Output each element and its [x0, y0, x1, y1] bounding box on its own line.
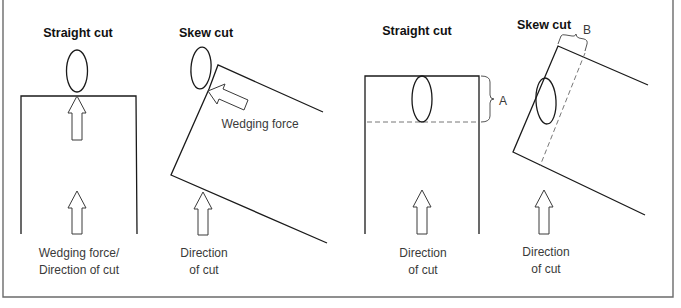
cutting-diagram: Straight cut Wedging force/ Direction of… — [0, 0, 681, 308]
direction-arrow-icon — [194, 192, 212, 235]
workpiece-outline — [171, 65, 327, 243]
cut-depth-dashed-line — [540, 53, 585, 166]
caption-line-1: Wedging force/ — [39, 246, 120, 260]
caption-line-1: Direction — [522, 245, 569, 259]
wedging-force-annotation: Wedging force — [221, 117, 298, 131]
panel-skew-cut-2: Skew cut B Direction of cut — [513, 18, 648, 276]
panel-skew-cut-1: Skew cut Wedging force Direction of cut — [171, 26, 327, 277]
panel-title: Skew cut — [179, 26, 234, 40]
wedging-force-arrow-icon — [68, 96, 86, 140]
wedging-force-arrow-icon — [208, 84, 248, 110]
caption-line-2: Direction of cut — [39, 263, 120, 277]
dimension-brace-a — [481, 76, 494, 122]
direction-arrow-icon — [413, 190, 431, 234]
direction-arrow-icon — [535, 190, 553, 234]
caption-line-1: Direction — [399, 246, 446, 260]
caption-line-1: Direction — [180, 246, 227, 260]
panel-straight-cut-1: Straight cut Wedging force/ Direction of… — [21, 26, 137, 277]
caption-line-2: of cut — [408, 263, 438, 277]
panel-title: Skew cut — [517, 18, 572, 32]
panel-title: Straight cut — [382, 24, 452, 38]
panel-straight-cut-2: Straight cut A Direction of cut — [365, 24, 507, 277]
dimension-label-b: B — [583, 23, 591, 37]
workpiece-outline — [513, 46, 648, 215]
direction-arrow-icon — [68, 191, 86, 234]
dimension-label-a: A — [499, 94, 507, 108]
blade-ellipse-icon — [67, 50, 88, 92]
blade-ellipse-icon — [535, 78, 557, 125]
caption-line-2: of cut — [531, 262, 561, 276]
caption-line-2: of cut — [189, 263, 219, 277]
blade-ellipse-icon — [190, 46, 213, 89]
blade-ellipse-icon — [412, 76, 432, 122]
panel-title: Straight cut — [43, 26, 113, 40]
diagram-canvas: Straight cut Wedging force/ Direction of… — [0, 0, 681, 308]
